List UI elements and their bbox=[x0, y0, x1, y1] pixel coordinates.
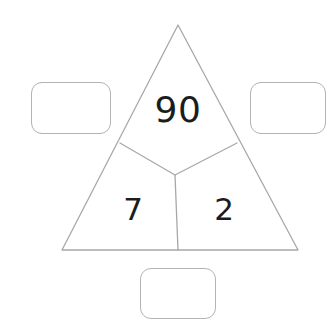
worksheet-canvas: 90 7 2 bbox=[0, 0, 334, 335]
right-answer-box[interactable] bbox=[250, 82, 326, 134]
top-cell-value: 90 bbox=[155, 92, 202, 128]
bottom-left-cell-value: 7 bbox=[123, 194, 143, 225]
bottom-right-cell-value: 2 bbox=[214, 194, 234, 225]
left-answer-box[interactable] bbox=[31, 82, 111, 134]
bottom-answer-box[interactable] bbox=[140, 268, 216, 319]
triangle-outline bbox=[62, 25, 298, 250]
